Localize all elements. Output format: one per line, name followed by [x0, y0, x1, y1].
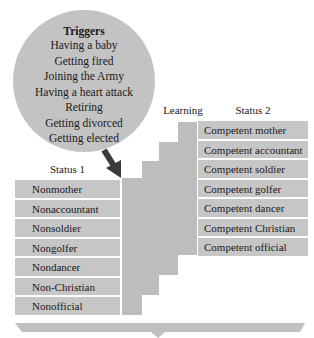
status1-item: Non-Christian: [15, 278, 120, 296]
status1-item: Nonsoldier: [15, 219, 120, 237]
status2-item: Competent soldier: [198, 160, 308, 178]
trigger-item: Getting elected: [13, 131, 155, 147]
learning-staircase: [122, 122, 197, 315]
status2-item: Competent mother: [198, 121, 308, 139]
status1-label: Status 1: [15, 163, 120, 175]
status2-list: Competent mother Competent accountant Co…: [198, 121, 308, 258]
status1-item: Nonmother: [15, 180, 120, 198]
triggers-title: Triggers: [13, 24, 155, 38]
status2-item: Competent dancer: [198, 199, 308, 217]
status1-list: Nonmother Nonaccountant Nonsoldier Nongo…: [15, 180, 120, 317]
trigger-item: Having a heart attack: [13, 85, 155, 101]
trigger-item: Joining the Army: [13, 69, 155, 85]
trigger-item: Getting divorced: [13, 116, 155, 132]
status2-item: Competent official: [198, 238, 308, 256]
trigger-item: Getting fired: [13, 54, 155, 70]
status2-label: Status 2: [197, 104, 309, 116]
status2-item: Competent golfer: [198, 180, 308, 198]
status1-item: Nongolfer: [15, 239, 120, 257]
trigger-item: Having a baby: [13, 38, 155, 54]
status1-item: Nonofficial: [15, 297, 120, 315]
status2-item: Competent Christian: [198, 219, 308, 237]
status1-item: Nonaccountant: [15, 200, 120, 218]
status2-item: Competent accountant: [198, 141, 308, 159]
status1-item: Nondancer: [15, 258, 120, 276]
brace-shape: [15, 323, 305, 338]
triggers-circle: Triggers Having a baby Getting fired Joi…: [13, 10, 155, 152]
trigger-item: Retiring: [13, 100, 155, 116]
